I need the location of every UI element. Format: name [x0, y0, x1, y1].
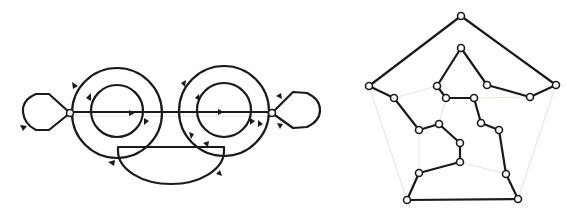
graph-node: [496, 127, 503, 134]
arrow-icon: [258, 120, 263, 127]
right-panel: [366, 13, 560, 204]
graph-node: [404, 197, 411, 204]
faint-edge: [394, 86, 437, 98]
arrow-icon: [20, 125, 27, 131]
graph-node: [391, 95, 398, 102]
graph-node: [436, 121, 443, 128]
node-left: [67, 110, 74, 117]
graph-node: [503, 171, 510, 178]
graph-node: [416, 170, 423, 177]
graph-node: [478, 120, 485, 127]
arrow-icon: [181, 80, 186, 87]
diagram-canvas: [0, 0, 572, 218]
arrow-icon: [108, 160, 115, 166]
graph-node: [484, 82, 491, 89]
arrow-icon: [72, 82, 78, 89]
left-panel: [20, 66, 320, 184]
left-loop: [23, 94, 70, 130]
arrow-icon: [195, 94, 200, 101]
graph-node: [515, 196, 522, 203]
right-inner-circle: [197, 83, 251, 137]
arrow-icon: [189, 132, 194, 139]
graph-node: [457, 140, 464, 147]
faint-edge: [474, 97, 530, 98]
node-right: [269, 110, 276, 117]
arrow-icon: [218, 109, 224, 115]
arrow-icon: [144, 118, 149, 125]
figure-svg: [0, 0, 572, 218]
arrow-icon: [276, 93, 282, 99]
graph-node: [443, 95, 450, 102]
arrow-icon: [216, 170, 222, 176]
graph-node: [457, 159, 464, 166]
graph-cycle: [369, 16, 556, 200]
graph-node: [458, 13, 465, 20]
graph-node: [434, 83, 441, 90]
faint-edge: [460, 162, 506, 174]
faint-edge: [369, 86, 407, 200]
graph-node: [366, 83, 373, 90]
graph-node: [471, 95, 478, 102]
arrow-icon: [277, 123, 283, 129]
faint-edge: [518, 85, 556, 199]
graph-node: [553, 82, 560, 89]
arrow-icon: [86, 93, 91, 101]
graph-node: [527, 94, 534, 101]
graph-node: [458, 45, 465, 52]
arrow-icon: [250, 118, 255, 125]
graph-node: [416, 127, 423, 134]
